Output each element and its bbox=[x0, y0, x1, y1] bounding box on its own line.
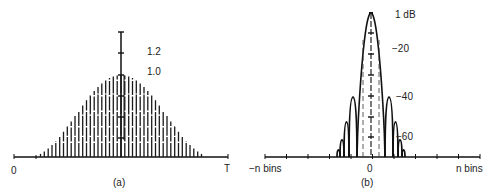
panel-b-label-minus60: −60 bbox=[396, 132, 413, 142]
panel-b-spectrum-plot bbox=[265, 13, 480, 159]
panel-a-window-plot bbox=[14, 32, 228, 159]
panel-b-label-1db: 1 dB bbox=[395, 10, 416, 20]
panel-b-x-left: −n bins bbox=[249, 164, 282, 174]
panel-a-x-start: 0 bbox=[11, 166, 17, 176]
panel-b-x-center: 0 bbox=[367, 164, 373, 174]
panel-a-caption: (a) bbox=[113, 178, 125, 188]
panel-b-x-right: n bins bbox=[456, 164, 483, 174]
panel-a-x-end: T bbox=[224, 164, 230, 174]
panel-b-label-minus20: −20 bbox=[392, 44, 409, 54]
panel-b-label-minus40: −40 bbox=[396, 92, 413, 102]
panel-a-label-1-0: 1.0 bbox=[147, 67, 161, 77]
panel-a-label-1-2: 1.2 bbox=[147, 47, 161, 57]
panel-b-caption: (b) bbox=[361, 178, 373, 188]
